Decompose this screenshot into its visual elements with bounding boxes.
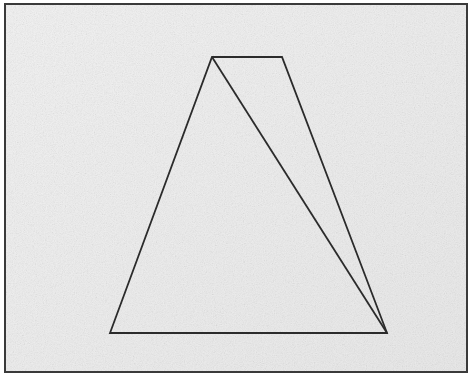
line-drawing-canvas (0, 0, 475, 382)
figure-root (0, 0, 475, 382)
panel-grain-texture (5, 4, 467, 372)
